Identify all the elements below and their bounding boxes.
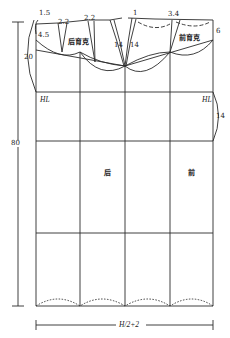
label-front-panel: 前 xyxy=(188,170,195,177)
back-dart-2 xyxy=(88,21,95,62)
label-1-5: 1.5 xyxy=(39,10,50,17)
label-2-2-left: 2.2 xyxy=(58,19,69,26)
label-20: 20 xyxy=(24,54,33,61)
label-back-panel: 后 xyxy=(104,170,111,177)
label-6: 6 xyxy=(216,28,220,35)
side-curve-left xyxy=(80,52,125,71)
label-hl-left: HL xyxy=(40,96,50,104)
label-hl-right: HL xyxy=(202,96,212,104)
label-14-left: 14 xyxy=(114,42,123,49)
label-14-right: 14 xyxy=(130,42,139,49)
label-4-5: 4.5 xyxy=(38,32,49,39)
label-front-yoke: 前育克 xyxy=(179,35,200,42)
label-2-2-right: 2.2 xyxy=(84,15,95,22)
pattern-diagram xyxy=(0,0,230,338)
label-14-side: 14 xyxy=(216,113,225,120)
label-80: 80 xyxy=(11,140,20,147)
front-waist-dashed xyxy=(138,22,210,28)
label-1: 1 xyxy=(133,10,137,17)
label-back-yoke: 后育克 xyxy=(68,39,89,46)
label-width-dimension: H/2+2 xyxy=(119,321,139,329)
back-dart-1 xyxy=(58,23,67,52)
label-3-4: 3.4 xyxy=(168,11,179,18)
hem-scallops xyxy=(36,299,213,306)
